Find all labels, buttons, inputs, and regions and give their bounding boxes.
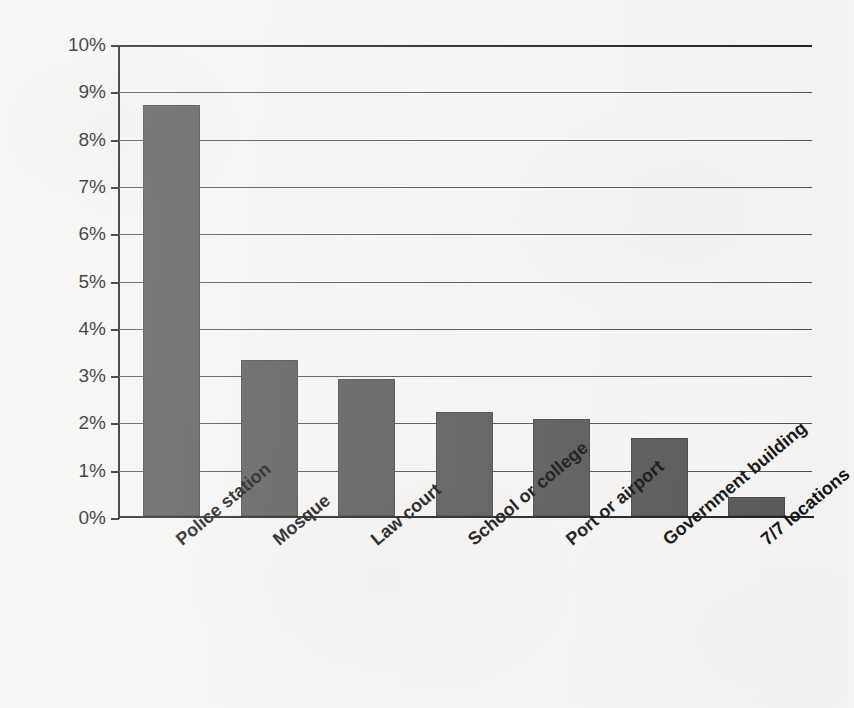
bar — [436, 412, 493, 516]
y-tick-label: 0% — [79, 507, 106, 529]
y-tick-mark — [111, 140, 119, 142]
y-tick-mark — [111, 187, 119, 189]
bar — [143, 105, 200, 517]
y-tick-mark — [111, 518, 119, 520]
bar — [338, 379, 395, 516]
y-tick-label: 10% — [68, 34, 106, 56]
gridline — [118, 282, 812, 283]
gridline — [118, 140, 812, 141]
gridline — [118, 376, 812, 377]
y-tick-label: 8% — [79, 129, 106, 151]
y-tick-mark — [111, 282, 119, 284]
y-tick-mark — [111, 376, 119, 378]
y-tick-label: 7% — [79, 176, 106, 198]
y-tick-mark — [111, 471, 119, 473]
y-tick-mark — [111, 234, 119, 236]
gridline — [118, 329, 812, 330]
y-tick-mark — [111, 329, 119, 331]
gridline — [118, 234, 812, 235]
gridline — [118, 92, 812, 93]
y-tick-label: 6% — [79, 223, 106, 245]
gridline — [118, 187, 812, 188]
y-tick-label: 3% — [79, 365, 106, 387]
y-tick-label: 4% — [79, 318, 106, 340]
bar — [728, 497, 785, 516]
plot-area: 0%1%2%3%4%5%6%7%8%9%10% — [118, 45, 812, 518]
y-tick-mark — [111, 423, 119, 425]
gridline — [118, 45, 812, 47]
y-tick-mark — [111, 92, 119, 94]
y-tick-label: 9% — [79, 81, 106, 103]
y-tick-label: 5% — [79, 271, 106, 293]
y-tick-label: 2% — [79, 412, 106, 434]
y-tick-mark — [111, 45, 119, 47]
y-tick-label: 1% — [79, 460, 106, 482]
